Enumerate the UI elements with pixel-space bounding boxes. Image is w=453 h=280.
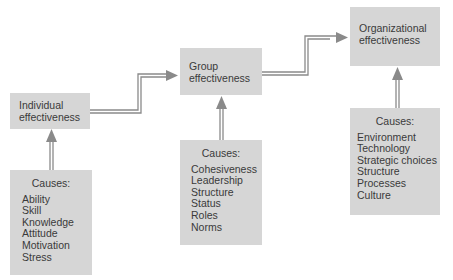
outcome-line: effectiveness — [189, 72, 253, 84]
outcome-line: effectiveness — [359, 34, 431, 46]
causes-title: Causes: — [10, 178, 92, 190]
outcome-line: Organizational — [359, 22, 431, 34]
organizational-effectiveness-box: Organizational effectiveness — [350, 7, 440, 66]
arrow-individual-to-group — [90, 74, 168, 110]
organizational-causes-box: Causes: Environment Technology Strategic… — [350, 108, 440, 215]
causes-list: Ability Skill Knowledge Attitude Motivat… — [10, 194, 92, 264]
arrowhead-org-up — [392, 67, 403, 80]
individual-causes-box: Causes: Ability Skill Knowledge Attitude… — [10, 170, 92, 275]
outcome-line: Group — [189, 60, 253, 72]
arrowhead-group-up — [216, 96, 227, 109]
causes-list: Cohesiveness Leadership Structure Status… — [180, 164, 262, 234]
cause-item: Culture — [357, 190, 440, 202]
cause-item: Stress — [22, 252, 92, 264]
causes-title: Causes: — [350, 116, 440, 128]
individual-effectiveness-box: Individual effectiveness — [10, 93, 90, 129]
causes-title: Causes: — [180, 148, 262, 160]
cause-item: Roles — [191, 210, 262, 222]
arrowhead-individual — [46, 129, 57, 142]
outcome-line: effectiveness — [19, 111, 81, 123]
arrowhead-org — [336, 32, 348, 43]
cause-item: Norms — [191, 222, 262, 234]
causes-list: Environment Technology Strategic choices… — [350, 132, 440, 202]
group-causes-box: Causes: Cohesiveness Leadership Structur… — [180, 140, 262, 245]
outcome-line: Individual — [19, 99, 81, 111]
cause-item: Processes — [357, 178, 440, 190]
arrow-group-to-org — [262, 36, 338, 72]
arrowhead-group — [166, 70, 178, 81]
cause-item: Motivation — [22, 240, 92, 252]
group-effectiveness-box: Group effectiveness — [180, 48, 262, 95]
